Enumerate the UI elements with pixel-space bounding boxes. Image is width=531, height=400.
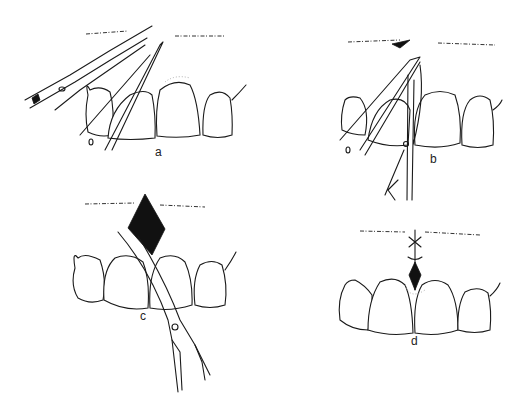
gum-margin bbox=[490, 283, 500, 296]
panel-label-b: b bbox=[430, 152, 437, 166]
gum-line bbox=[86, 31, 128, 34]
panel-b bbox=[340, 40, 502, 200]
tooth bbox=[194, 262, 226, 308]
gum-margin bbox=[225, 252, 236, 270]
papilla-outline bbox=[165, 77, 190, 82]
scissors-handle bbox=[385, 150, 404, 200]
gum-line bbox=[348, 40, 400, 42]
gum-line bbox=[438, 43, 495, 45]
gum-line bbox=[360, 231, 405, 232]
tooth bbox=[415, 281, 458, 335]
tooth bbox=[203, 92, 232, 137]
panel-label-a: a bbox=[155, 145, 162, 159]
gum-line bbox=[425, 232, 480, 235]
suture-wound bbox=[409, 262, 421, 290]
gum-line bbox=[85, 203, 135, 204]
forceps-ring bbox=[89, 139, 93, 145]
tooth bbox=[73, 255, 104, 302]
tooth bbox=[341, 97, 366, 135]
panel-d bbox=[339, 230, 500, 334]
gum-margin bbox=[493, 100, 502, 110]
panel-label-d: d bbox=[411, 334, 418, 348]
panel-c bbox=[73, 194, 236, 392]
frenum-tip bbox=[392, 40, 410, 48]
forceps-ring bbox=[346, 147, 350, 153]
tooth bbox=[339, 280, 372, 330]
tooth bbox=[150, 256, 192, 310]
tooth bbox=[368, 279, 413, 334]
tooth bbox=[462, 96, 494, 148]
panel-label-c: c bbox=[140, 309, 146, 323]
tooth bbox=[156, 82, 200, 137]
panel-a bbox=[25, 26, 246, 150]
gum-margin bbox=[232, 85, 246, 100]
scissors-pivot bbox=[172, 324, 178, 330]
illustration-canvas bbox=[0, 0, 531, 400]
tooth bbox=[458, 289, 491, 333]
tooth bbox=[104, 256, 149, 309]
gum-line bbox=[160, 205, 205, 207]
